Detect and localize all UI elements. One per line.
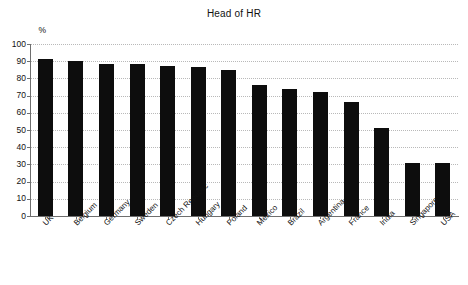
y-axis-tick-mark: [27, 147, 30, 148]
y-axis-unit-label: %: [24, 25, 46, 35]
plot-area: [30, 44, 458, 216]
y-axis-tick-mark: [27, 113, 30, 114]
y-axis-tick-mark: [27, 164, 30, 165]
y-axis-tick-mark: [27, 182, 30, 183]
bars-layer: [30, 44, 458, 216]
bar: [344, 102, 359, 216]
y-axis-tick-mark: [27, 61, 30, 62]
y-axis-tick-label: 60: [2, 108, 26, 117]
bar: [68, 61, 83, 216]
y-axis-tick-label: 20: [2, 177, 26, 186]
y-axis-tick-label: 90: [2, 57, 26, 66]
bar: [252, 85, 267, 216]
y-axis-tick-mark: [27, 96, 30, 97]
y-axis-tick-label: 50: [2, 126, 26, 135]
y-axis-tick-mark: [27, 78, 30, 79]
y-axis-tick-label: 30: [2, 160, 26, 169]
chart-title: Head of HR: [0, 8, 468, 19]
y-axis-tick-mark: [27, 199, 30, 200]
y-axis-tick-label: 80: [2, 74, 26, 83]
bar: [130, 64, 145, 216]
bar: [99, 64, 114, 216]
bar: [405, 163, 420, 216]
y-axis-tick-label: 0: [2, 212, 26, 221]
y-axis-tick-label: 100: [2, 40, 26, 49]
bar: [160, 66, 175, 217]
y-axis-tick-mark: [27, 216, 30, 217]
bar-chart: Head of HR % 0102030405060708090100 UKBe…: [0, 0, 468, 285]
bar: [435, 163, 450, 216]
bar: [38, 59, 53, 216]
y-axis-tick-label: 10: [2, 194, 26, 203]
y-axis-tick-mark: [27, 130, 30, 131]
bar: [282, 89, 297, 216]
y-axis-line: [30, 44, 31, 217]
y-axis-tick-label: 70: [2, 91, 26, 100]
bar: [221, 70, 236, 216]
bar: [374, 128, 389, 216]
y-axis-tick-label: 40: [2, 143, 26, 152]
bar: [313, 92, 328, 216]
y-axis-tick-mark: [27, 44, 30, 45]
